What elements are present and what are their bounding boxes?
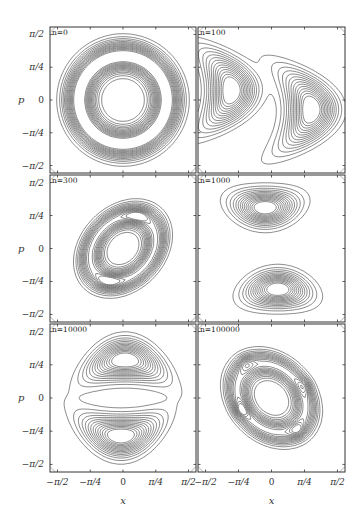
- y-tick-label: 0: [38, 95, 44, 105]
- contour-lines: [220, 347, 322, 450]
- panel-0: n=0π/2π/40−π/4−π/2p: [18, 27, 196, 173]
- plot-frame: [198, 175, 345, 322]
- x-axis-label: x: [120, 495, 126, 506]
- plot-frame: [198, 324, 345, 472]
- panel-2: n=300π/2π/40−π/4−π/2p: [18, 175, 196, 322]
- y-tick-label: −π/4: [22, 128, 44, 138]
- panel-3: n=1000: [198, 175, 345, 322]
- boundary-guide: [198, 175, 345, 322]
- plot-frame: [50, 324, 196, 472]
- panel-5: n=100000−π/2−π/40π/4π/2x: [194, 324, 345, 506]
- contour-lines: [57, 34, 190, 167]
- panel-label: n=1000: [200, 176, 230, 185]
- y-tick-label: π/2: [28, 178, 44, 188]
- x-axis-label: x: [269, 495, 275, 506]
- boundary-guide: [50, 175, 196, 322]
- x-tick-label: −π/4: [79, 477, 101, 487]
- x-tick-label: π/4: [296, 477, 312, 487]
- x-tick-label: −π/2: [46, 477, 68, 487]
- panel-label: n=0: [52, 28, 68, 37]
- y-tick-label: π/2: [28, 327, 44, 337]
- y-axis-label: p: [18, 392, 25, 403]
- y-axis-label: p: [18, 243, 25, 254]
- x-tick-label: π/2: [329, 477, 345, 487]
- y-tick-label: π/2: [28, 29, 44, 39]
- y-tick-label: 0: [38, 393, 44, 403]
- x-tick-label: −π/2: [194, 477, 216, 487]
- contour-lines: [198, 37, 345, 164]
- contour-lines: [64, 332, 182, 464]
- figure: n=0π/2π/40−π/4−π/2pn=100n=300π/2π/40−π/4…: [0, 0, 362, 527]
- panel-label: n=10000: [52, 325, 87, 334]
- panel-1: n=100: [198, 27, 345, 173]
- contour-lines: [74, 199, 173, 299]
- y-tick-label: 0: [38, 244, 44, 254]
- contour-lines: [220, 183, 322, 314]
- x-tick-label: π/4: [147, 477, 163, 487]
- panel-4: n=10000π/2π/40−π/4−π/2p−π/2−π/40π/4π/2x: [18, 324, 196, 506]
- plot-frame: [50, 175, 196, 322]
- x-tick-label: −π/4: [227, 477, 249, 487]
- y-tick-label: −π/2: [22, 459, 44, 469]
- y-tick-label: −π/2: [22, 161, 44, 171]
- panel-label: n=100: [200, 28, 226, 37]
- y-tick-label: π/4: [28, 211, 44, 221]
- panel-label: n=300: [52, 176, 78, 185]
- panel-label: n=100000: [200, 325, 240, 334]
- y-tick-label: −π/2: [22, 309, 44, 319]
- boundary-guide: [198, 324, 345, 472]
- x-tick-label: 0: [120, 477, 126, 487]
- x-tick-label: 0: [269, 477, 275, 487]
- y-tick-label: π/4: [28, 62, 44, 72]
- y-tick-label: π/4: [28, 360, 44, 370]
- y-axis-label: p: [18, 94, 25, 105]
- y-tick-label: −π/4: [22, 426, 44, 436]
- boundary-guide: [50, 324, 196, 472]
- y-tick-label: −π/4: [22, 276, 44, 286]
